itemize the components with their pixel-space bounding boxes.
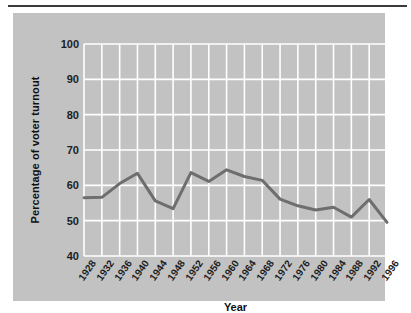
data-line-series (84, 44, 387, 256)
x-axis-tick-1992: 1992 (361, 258, 383, 283)
x-axis-tick-1944: 1944 (148, 258, 170, 283)
y-axis-tick-90: 90 (53, 74, 79, 85)
x-axis-tick-1936: 1936 (112, 258, 134, 283)
x-axis-tick-1928: 1928 (76, 258, 98, 283)
x-axis-tick-1984: 1984 (326, 258, 348, 283)
x-axis-tick-1976: 1976 (290, 258, 312, 283)
x-axis-tick-1964: 1964 (237, 258, 259, 283)
y-axis-tick-80: 80 (53, 109, 79, 120)
plot-area (84, 44, 387, 256)
x-axis-tick-1932: 1932 (94, 258, 116, 283)
x-axis-tick-1948: 1948 (165, 258, 187, 283)
x-axis-tick-1952: 1952 (183, 258, 205, 283)
y-axis-tick-labels: 405060708090100 (51, 44, 79, 256)
x-axis-tick-1996: 1996 (379, 258, 401, 283)
x-axis-tick-labels: 1928193219361940194419481952195619601964… (84, 258, 387, 304)
top-rule-divider (8, 5, 407, 7)
y-axis-tick-70: 70 (53, 145, 79, 156)
y-axis-title: Percentage of voter turnout (27, 44, 43, 256)
y-axis-tick-40: 40 (53, 251, 79, 262)
x-axis-title: Year (84, 301, 387, 313)
x-axis-tick-1980: 1980 (308, 258, 330, 283)
x-axis-tick-1960: 1960 (219, 258, 241, 283)
y-axis-tick-50: 50 (53, 215, 79, 226)
x-axis-tick-1968: 1968 (254, 258, 276, 283)
figure-panel: Percentage of voter turnout 405060708090… (13, 13, 385, 301)
x-axis-tick-1956: 1956 (201, 258, 223, 283)
x-axis-tick-1940: 1940 (130, 258, 152, 283)
y-axis-title-label: Percentage of voter turnout (29, 77, 41, 224)
y-axis-tick-100: 100 (53, 39, 79, 50)
y-axis-tick-60: 60 (53, 180, 79, 191)
x-axis-tick-1972: 1972 (272, 258, 294, 283)
x-axis-tick-1988: 1988 (344, 258, 366, 283)
